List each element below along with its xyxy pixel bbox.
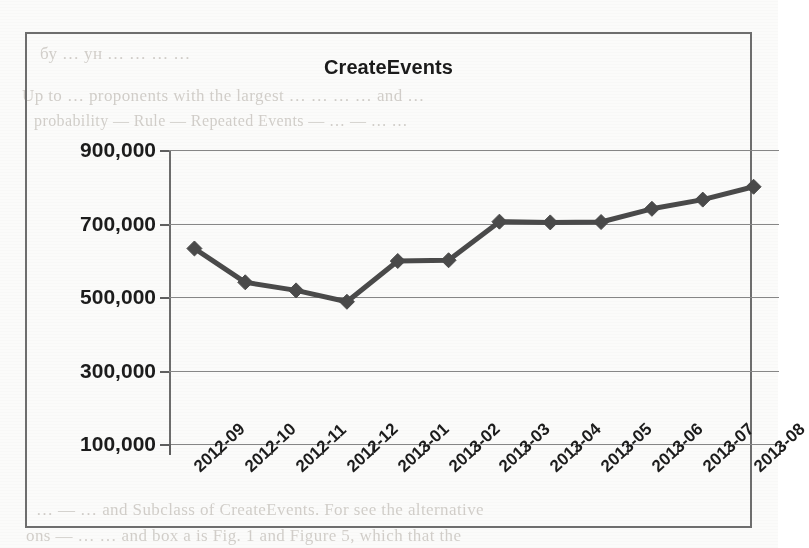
y-axis-label: 500,000 [80,285,156,309]
y-tick [160,224,169,226]
x-axis-label-wrap: 2012-11 [292,462,306,477]
y-tick [160,297,169,299]
x-axis-label-wrap: 2013-05 [597,462,611,477]
y-axis-label: 900,000 [80,138,156,162]
bleed-through-text: ons — … … and box a is Fig. 1 and Figure… [26,526,461,546]
x-tick [169,444,171,455]
data-point-marker [644,201,659,216]
y-tick [160,150,169,152]
x-axis-label-wrap: 2013-08 [750,462,764,477]
x-axis-label-wrap: 2012-10 [241,462,255,477]
x-axis-label-wrap: 2013-02 [445,462,459,477]
data-point-marker [695,192,710,207]
y-axis-label: 700,000 [80,212,156,236]
x-axis-label-wrap: 2013-03 [495,462,509,477]
y-axis-label: 100,000 [80,432,156,456]
x-axis-label-wrap: 2013-06 [648,462,662,477]
x-axis-label-wrap: 2013-01 [394,462,408,477]
data-point-marker [746,179,761,194]
chart-title: CreateEvents [27,56,750,79]
x-axis-label-wrap: 2012-09 [190,462,204,477]
series-createevents [169,150,779,444]
data-point-marker [543,215,558,230]
chart-figure-frame: CreateEvents 100,000300,000500,000700,00… [25,32,752,528]
series-line [194,187,753,302]
x-axis-label-wrap: 2013-07 [699,462,713,477]
plot-area: 100,000300,000500,000700,000900,000 2012… [169,150,779,444]
y-tick [160,371,169,373]
x-axis-label-wrap: 2013-04 [546,462,560,477]
y-tick [160,444,169,446]
data-point-marker [289,283,304,298]
data-point-marker [594,215,609,230]
y-axis-label: 300,000 [80,359,156,383]
x-axis-label-wrap: 2012-12 [343,462,357,477]
